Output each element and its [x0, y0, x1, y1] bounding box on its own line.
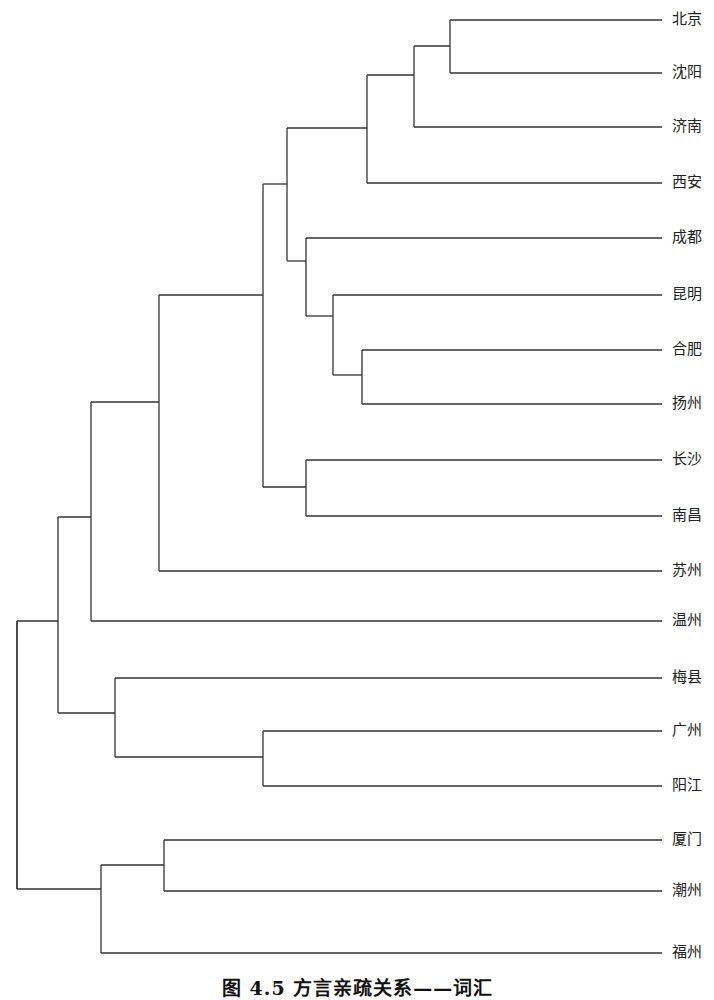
leaf-label: 长沙: [672, 450, 702, 468]
figure-caption: 图 4.5 方言亲疏关系——词汇: [222, 973, 493, 1000]
leaf-label: 合肥: [672, 340, 702, 358]
leaf-label: 温州: [672, 611, 702, 629]
leaf-label: 苏州: [672, 561, 702, 579]
leaf-label: 扬州: [672, 394, 702, 412]
leaf-label: 济南: [672, 117, 702, 135]
leaf-label: 潮州: [672, 881, 702, 899]
leaf-label: 成都: [672, 228, 702, 246]
leaf-label: 阳江: [672, 776, 702, 794]
leaf-label: 沈阳: [672, 63, 702, 81]
leaf-label: 南昌: [672, 506, 702, 524]
leaf-label: 梅县: [672, 668, 702, 686]
leaf-label: 广州: [672, 721, 702, 739]
leaf-label: 北京: [672, 10, 702, 28]
leaf-label: 昆明: [672, 285, 702, 303]
leaf-label: 厦门: [672, 830, 702, 848]
leaf-label: 福州: [672, 943, 702, 961]
leaf-label: 西安: [672, 173, 702, 191]
